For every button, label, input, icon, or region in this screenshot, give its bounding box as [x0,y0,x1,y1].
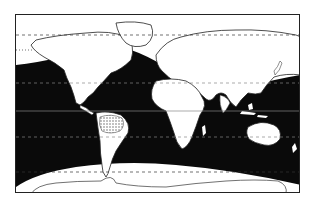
world-map-frame [15,14,300,193]
world-map [16,15,300,193]
antarctica [31,177,286,193]
amazon-stipple-region [99,115,123,133]
